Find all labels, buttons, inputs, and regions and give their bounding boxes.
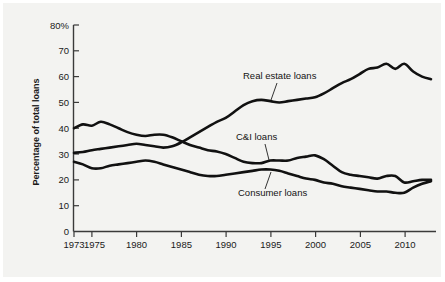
- x-tick-label: 1980: [126, 239, 147, 250]
- x-tick-label: 1985: [171, 239, 192, 250]
- annotation-ci-loans: C&I loans: [236, 131, 277, 160]
- x-tick-label: 1995: [260, 239, 281, 250]
- x-tick-label: 1975: [84, 239, 105, 250]
- x-tick-label: 1990: [216, 239, 237, 250]
- y-tick-label: 50: [58, 97, 69, 108]
- series-paths: [74, 64, 431, 194]
- x-axis-ticks: [74, 232, 405, 238]
- annotation-real-estate-loans: Real estate loans: [243, 70, 317, 100]
- chart-figure: Percentage of total loans 80% 70 60 50 4…: [0, 0, 445, 282]
- series-label-real-estate-loans: Real estate loans: [243, 70, 317, 81]
- y-axis-tick-labels: 80% 70 60 50 40 30 20 10 0: [50, 20, 70, 238]
- x-tick-label: 2005: [350, 239, 371, 250]
- y-axis-ticks: [74, 25, 80, 206]
- series-label-consumer-loans: Consumer loans: [238, 187, 307, 198]
- leader-line-ci-loans: [265, 144, 269, 160]
- y-tick-label: 40: [58, 123, 69, 134]
- y-tick-label: 70: [58, 45, 69, 56]
- series-label-ci-loans: C&I loans: [236, 131, 277, 142]
- x-tick-label: 2010: [395, 239, 416, 250]
- line-chart: Percentage of total loans 80% 70 60 50 4…: [3, 3, 445, 282]
- y-tick-label: 80%: [50, 20, 70, 31]
- y-axis-title: Percentage of total loans: [31, 78, 41, 185]
- y-tick-label: 0: [64, 226, 69, 237]
- y-tick-label: 20: [58, 174, 69, 185]
- x-tick-label: 1973: [63, 239, 84, 250]
- y-tick-label: 10: [58, 200, 69, 211]
- y-tick-label: 60: [58, 71, 69, 82]
- y-tick-label: 30: [58, 149, 69, 160]
- x-tick-label: 2000: [305, 239, 326, 250]
- leader-line-real-estate-loans: [271, 83, 277, 100]
- x-axis-tick-labels: 1973 1975 1980 1985 1990 1995 2000 2005 …: [63, 239, 415, 250]
